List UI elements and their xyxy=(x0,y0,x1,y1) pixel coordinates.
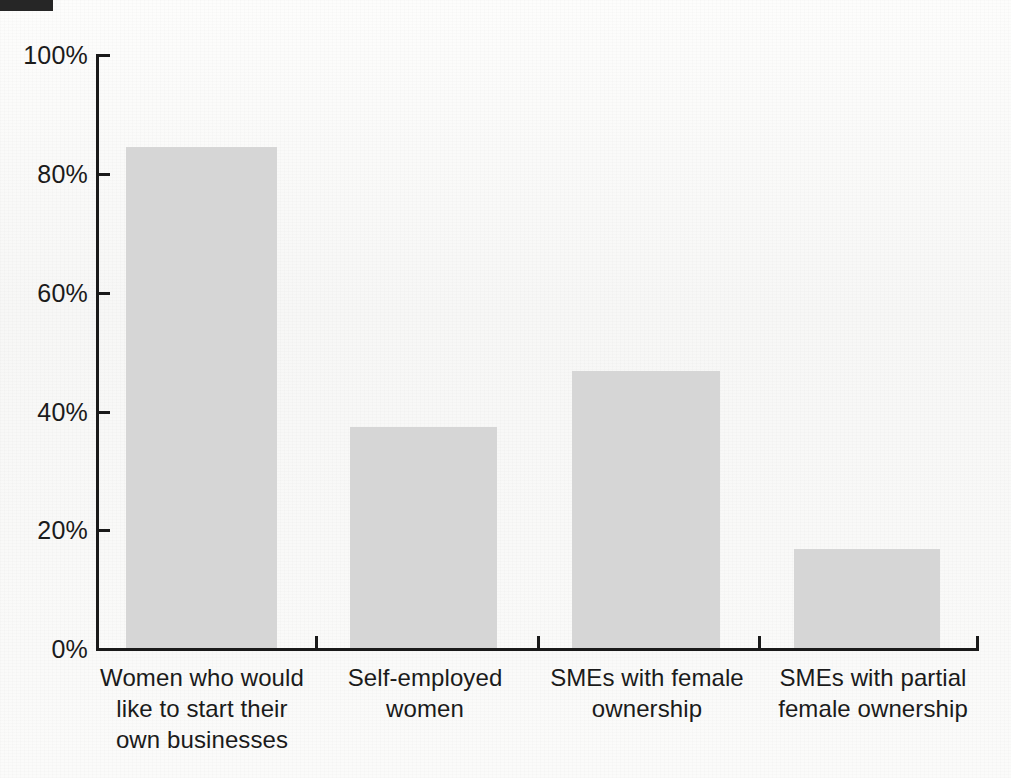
y-tick-40 xyxy=(96,411,110,414)
x-tick-end xyxy=(976,636,979,649)
y-tick-label-20: 20% xyxy=(4,518,88,543)
x-tick-separator-2 xyxy=(537,636,540,649)
y-tick-label-0: 0% xyxy=(4,637,88,662)
y-tick-label-40: 40% xyxy=(4,400,88,425)
x-category-label-3-line-2: ownership xyxy=(539,693,755,724)
chart-page: 100% 80% 60% 40% 20% 0% xyxy=(0,0,1011,778)
y-tick-label-20-wrap: 20% xyxy=(0,518,88,543)
x-category-label-3-line-1: SMEs with female xyxy=(539,662,755,693)
y-tick-label-100-wrap: 100% xyxy=(0,43,88,68)
x-category-label-1-line-3: own businesses xyxy=(93,724,311,755)
x-tick-separator-1 xyxy=(315,636,318,649)
x-category-label-1: Women who would like to start their own … xyxy=(93,662,311,755)
x-category-label-3: SMEs with female ownership xyxy=(539,662,755,724)
bar-self-employed-women[interactable] xyxy=(350,427,497,648)
x-category-label-1-line-1: Women who would xyxy=(93,662,311,693)
y-tick-20 xyxy=(96,529,110,532)
x-category-label-2-line-1: Self-employed xyxy=(318,662,532,693)
x-category-label-4-line-2: female ownership xyxy=(758,693,988,724)
y-tick-label-0-wrap: 0% xyxy=(0,637,88,662)
y-tick-80 xyxy=(96,173,110,176)
x-category-label-4: SMEs with partial female ownership xyxy=(758,662,988,724)
y-tick-100 xyxy=(96,54,110,57)
y-tick-label-80-wrap: 80% xyxy=(0,162,88,187)
x-tick-separator-3 xyxy=(758,636,761,649)
y-axis-line xyxy=(96,55,99,651)
bar-chart: 100% 80% 60% 40% 20% 0% xyxy=(0,0,1011,778)
y-tick-60 xyxy=(96,292,110,295)
bar-smes-with-female-ownership[interactable] xyxy=(572,371,720,648)
y-tick-label-100: 100% xyxy=(4,43,88,68)
x-category-label-2: Self-employed women xyxy=(318,662,532,724)
bar-women-who-would-like-to-start-their-own-businesses[interactable] xyxy=(126,147,277,648)
x-category-label-2-line-2: women xyxy=(318,693,532,724)
y-tick-label-60-wrap: 60% xyxy=(0,281,88,306)
y-tick-label-80: 80% xyxy=(4,162,88,187)
x-category-label-1-line-2: like to start their xyxy=(93,693,311,724)
y-tick-label-60: 60% xyxy=(4,281,88,306)
x-category-label-4-line-1: SMEs with partial xyxy=(758,662,988,693)
bar-smes-with-partial-female-ownership[interactable] xyxy=(794,549,940,648)
y-tick-label-40-wrap: 40% xyxy=(0,400,88,425)
